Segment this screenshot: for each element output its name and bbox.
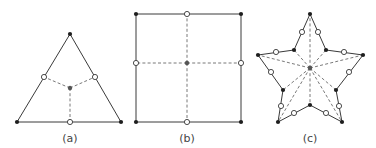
spoke-line [283,68,310,90]
centroid-node [68,86,72,90]
spoke-line [70,77,95,88]
spoke-line [44,77,70,88]
vertex-node [361,53,365,57]
centroid-node [185,61,189,65]
panel-c-label: (c) [303,132,318,145]
panel-b-square [133,11,243,124]
vertex-node [276,120,280,124]
midpoint-node [273,49,278,54]
panel-a-triangle [15,32,123,125]
vertex-node [292,48,296,52]
vertex-node [334,88,338,92]
midpoint-node [323,110,328,115]
midpoint-node [133,60,138,65]
midpoint-node [336,103,341,108]
midpoint-node [315,29,320,34]
midpoint-node [41,74,46,79]
panel-c-star [256,12,365,124]
midpoint-node [291,110,296,115]
vertex-node [239,12,243,16]
midpoint-node [278,103,283,108]
midpoint-node [67,119,72,124]
midpoint-node [268,69,273,74]
triangle-outline [17,34,121,122]
midpoint-node [92,74,97,79]
decomposition-diagram: (a) (b) (c) [0,0,376,148]
vertex-node [256,53,260,57]
vertex-node [119,120,123,124]
panel-a-label: (a) [62,132,77,145]
midpoint-node [299,29,304,34]
spoke-line [294,50,310,68]
spoke-line [310,68,336,90]
square-outline [136,14,241,122]
vertex-node [308,12,312,16]
midpoint-node [346,69,351,74]
centroid-node [308,66,312,70]
vertex-node [134,120,138,124]
vertex-node [324,48,328,52]
vertex-node [15,120,19,124]
vertex-node [281,88,285,92]
vertex-node [308,103,312,107]
midpoint-node [238,60,243,65]
vertex-node [239,120,243,124]
midpoint-node [184,11,189,16]
panel-b-label: (b) [179,132,195,145]
midpoint-node [341,49,346,54]
spoke-line [310,50,326,68]
vertex-node [340,120,344,124]
midpoint-node [184,119,189,124]
vertex-node [134,12,138,16]
vertex-node [68,32,72,36]
